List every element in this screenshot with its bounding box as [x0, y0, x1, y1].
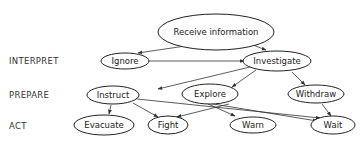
svg-text:Ignore: Ignore [111, 56, 138, 66]
edge-investigate-explore [232, 70, 256, 87]
node-ignore: Ignore [101, 53, 149, 69]
node-warn: Warn [230, 117, 276, 133]
svg-text:Instruct: Instruct [97, 90, 130, 100]
svg-text:Investigate: Investigate [253, 56, 300, 66]
decision-flow-diagram: INTERPRET PREPARE ACT Receive informatio… [0, 0, 364, 146]
node-wait: Wait [311, 116, 355, 134]
node-explore: Explore [182, 84, 238, 104]
row-label-act: ACT [9, 121, 27, 131]
node-fight: Fight [148, 116, 188, 134]
svg-text:Explore: Explore [194, 89, 226, 99]
svg-text:Fight: Fight [158, 120, 179, 130]
node-withdraw: Withdraw [288, 85, 344, 103]
svg-text:Evacuate: Evacuate [84, 120, 123, 130]
row-label-interpret: INTERPRET [9, 56, 59, 66]
svg-text:Receive information: Receive information [173, 27, 258, 37]
node-instruct: Instruct [87, 86, 139, 104]
svg-text:Wait: Wait [324, 120, 343, 130]
edge-withdraw-wait [322, 104, 331, 116]
svg-text:Withdraw: Withdraw [296, 89, 336, 99]
svg-text:Warn: Warn [242, 120, 264, 130]
node-evacuate: Evacuate [74, 115, 134, 135]
node-receive-information: Receive information [158, 14, 274, 50]
edge-investigate-withdraw [292, 72, 305, 85]
edge-instruct-evacuate [109, 105, 111, 114]
edge-instruct-fight [133, 103, 158, 117]
node-investigate: Investigate [243, 51, 311, 71]
row-label-prepare: PREPARE [9, 90, 49, 100]
edges [109, 40, 331, 121]
